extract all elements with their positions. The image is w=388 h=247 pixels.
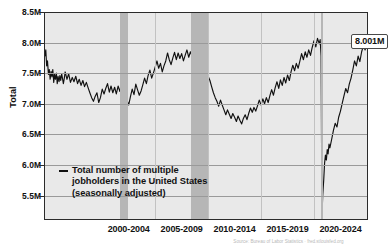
y-axis-tickmark xyxy=(39,43,44,44)
gridline-vertical xyxy=(261,12,262,220)
x-axis-tick-label: 2000-2004 xyxy=(108,224,150,234)
legend-line-marker-icon xyxy=(59,170,68,172)
x-axis-tick-label: 2015-2019 xyxy=(266,224,308,234)
legend-label-line: (seasonally adjusted) xyxy=(72,188,207,199)
y-axis-tickmark xyxy=(39,134,44,135)
y-axis-tick-label: 7.5M xyxy=(1,68,41,78)
gridline-vertical xyxy=(314,12,315,220)
gridline-horizontal xyxy=(44,73,368,74)
y-axis-tick-label: 6.0M xyxy=(1,160,41,170)
y-axis-tickmark xyxy=(39,73,44,74)
y-axis-tick-label: 7.0M xyxy=(1,99,41,109)
y-axis-tick-label: 8.5M xyxy=(1,7,41,17)
y-axis-tick-label: 8.0M xyxy=(1,38,41,48)
legend-label: Total number of multiplejobholders in th… xyxy=(72,165,207,199)
y-axis-tick-labels: 8.5M8.0M7.5M7.0M6.5M6.0M5.5M xyxy=(0,0,41,247)
gridline-horizontal xyxy=(44,104,368,105)
y-axis-tick-label: 5.5M xyxy=(1,191,41,201)
x-axis-spine xyxy=(44,219,368,220)
plot-top-spine xyxy=(44,12,368,13)
last-value-annotation: 8.001M xyxy=(351,34,388,49)
gridline-horizontal xyxy=(44,43,368,44)
x-axis-tick-label: 2010-2014 xyxy=(214,224,256,234)
legend-label-line: Total number of multiple xyxy=(72,165,207,176)
y-axis-tickmark xyxy=(39,196,44,197)
y-axis-spine xyxy=(44,12,45,220)
y-axis-tickmark xyxy=(39,165,44,166)
y-axis-tick-label: 6.5M xyxy=(1,129,41,139)
gridline-horizontal xyxy=(44,134,368,135)
legend-label-line: jobholders in the United States xyxy=(72,176,207,187)
x-axis-tick-label: 2020-2024 xyxy=(319,224,361,234)
footer-source-note: Source: Bureau of Labor Statistics · fre… xyxy=(190,239,387,244)
y-axis-tickmark xyxy=(39,12,44,13)
chart-legend: Total number of multiplejobholders in th… xyxy=(59,165,244,199)
x-axis-tick-label: 2005-2009 xyxy=(161,224,203,234)
y-axis-tickmark xyxy=(39,104,44,105)
x-axis-tick-labels: 2000-20042005-20092010-20142015-20192020… xyxy=(44,224,368,238)
